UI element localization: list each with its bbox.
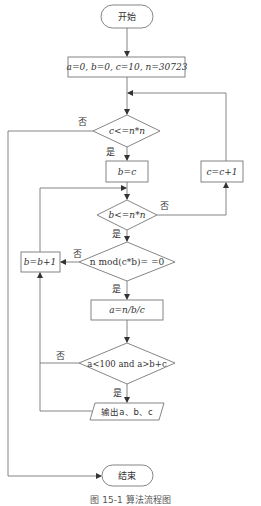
edge-label-no-4: 否 <box>56 352 65 361</box>
edge-label-yes-4: 是 <box>113 389 122 398</box>
calc-a-label: a=n/b/c <box>109 306 145 315</box>
start-label: 开始 <box>118 13 136 22</box>
init-label: a=0, b=0, c=10, n=30723 <box>67 63 188 72</box>
edge-label-yes-2: 是 <box>112 230 121 239</box>
cond-b-label: b<=n*n <box>109 211 146 220</box>
end-label: 结束 <box>118 472 136 481</box>
output-label: 输出a、b、c <box>101 408 152 417</box>
inc-c-label: c=c+1 <box>207 168 238 177</box>
edge-label-no-3: 否 <box>73 250 82 259</box>
assign-b-label: b=c <box>118 168 136 177</box>
cond-a-label: a<100 and a>b+c <box>87 360 166 369</box>
figure-caption: 图 15-1 算法流程图 <box>0 493 261 506</box>
inc-b-label: b=b+1 <box>24 258 56 267</box>
edge-label-no-1: 否 <box>78 118 87 127</box>
cond-mod-label: n mod(c*b)= =0 <box>90 258 164 267</box>
edge-label-no-2: 否 <box>160 202 169 211</box>
cond-c-label: c<=n*n <box>109 127 145 136</box>
edge-label-yes-1: 是 <box>106 148 115 157</box>
edge-label-yes-3: 是 <box>112 285 121 294</box>
